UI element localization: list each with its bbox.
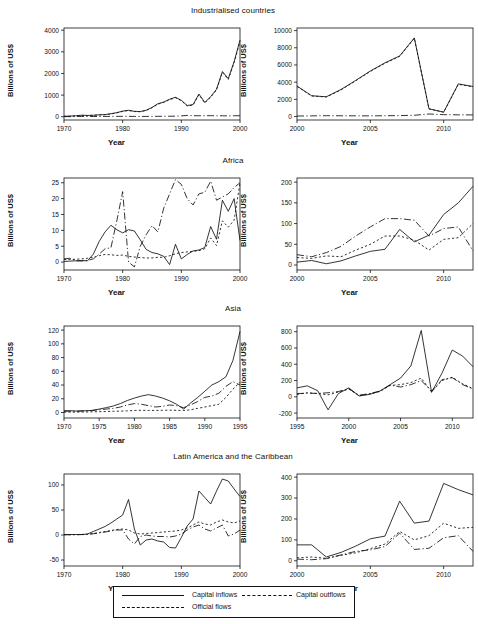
x-tick-label: 1970 (57, 423, 72, 430)
y-tick-label: 4000 (44, 27, 59, 34)
y-tick-label: 80 (52, 354, 60, 361)
chart-panel-asia-right: Billions of US$Year-20002004006008001995… (233, 314, 466, 454)
series-line-capital-outflows (64, 41, 240, 116)
y-tick-label: 400 (281, 361, 292, 368)
y-tick-label: 200 (281, 515, 292, 522)
y-tick-label: 0 (55, 258, 59, 265)
chart-panel-africa-right: Billions of US$Year050100150200200020052… (233, 166, 466, 306)
y-tick-label: 3000 (44, 48, 59, 55)
chart-panel-industrialised-right: Billions of US$Year020004000600080001000… (233, 16, 466, 156)
chart-row-3: Billions of US$Year020406080100120197019… (0, 314, 466, 454)
y-tick-label: 800 (281, 328, 292, 335)
chart-row-1: Billions of US$Year010002000300040001970… (0, 16, 466, 156)
plot-area: 010002000300040001970198019902000 (38, 26, 214, 118)
series-line-official-flows (297, 114, 473, 116)
y-tick-label: 0 (288, 393, 292, 400)
plot-area: -20002004006008001995200020052010 (271, 324, 447, 416)
y-tick-label: 10000 (274, 27, 293, 34)
panel-title-africa: Africa (0, 156, 466, 165)
plot-area: 0100200300400200020052010 (271, 472, 447, 564)
x-tick-label: 2000 (290, 275, 305, 282)
y-tick-label: 0 (55, 531, 59, 538)
y-tick-label: 300 (281, 494, 292, 501)
y-tick-label: 120 (48, 327, 59, 334)
y-tick-label: 4000 (277, 79, 292, 86)
x-tick-label: 1990 (174, 571, 189, 578)
legend-sample-official-flows (122, 607, 184, 618)
y-tick-label: 15 (52, 211, 60, 218)
y-axis-label: Billions of US$ (237, 28, 249, 114)
y-tick-label: 150 (281, 199, 292, 206)
series-line-capital-inflows (297, 186, 473, 263)
y-tick-label: 600 (281, 344, 292, 351)
series-line-official-flows (64, 525, 240, 544)
chart-panel-latam-right: Billions of US$Year010020030040020002005… (233, 462, 466, 602)
legend-label-capital-outflows: Capital outflows (296, 591, 345, 598)
series-line-capital-inflows (297, 38, 473, 112)
y-axis-label: Billions of US$ (237, 474, 249, 560)
legend-label-capital-inflows: Capital inflows (192, 591, 237, 598)
plot-area: 0200040006000800010000200020052010 (271, 26, 447, 118)
x-tick-label: 1985 (162, 423, 177, 430)
y-tick-label: 100 (48, 340, 59, 347)
y-tick-label: 2000 (44, 70, 59, 77)
x-tick-label: 2000 (290, 571, 305, 578)
x-tick-label: 1980 (115, 125, 130, 132)
y-tick-label: -50 (49, 556, 59, 563)
x-tick-label: 1970 (57, 275, 72, 282)
y-axis-label: Billions of US$ (4, 326, 16, 412)
y-tick-label: 100 (281, 220, 292, 227)
y-axis-label: Billions of US$ (237, 178, 249, 264)
y-tick-label: 2000 (277, 96, 292, 103)
x-tick-label: 2000 (290, 125, 305, 132)
y-axis-label: Billions of US$ (4, 474, 16, 560)
y-tick-label: 0 (55, 409, 59, 416)
y-tick-label: 20 (52, 195, 60, 202)
series-line-capital-inflows (64, 199, 240, 265)
y-tick-label: 25 (52, 179, 60, 186)
y-tick-label: 0 (55, 113, 59, 120)
series-line-capital-inflows (64, 40, 240, 116)
plot-area: 050100150200200020052010 (271, 176, 447, 268)
series-line-official-flows (297, 219, 473, 257)
y-tick-label: 10 (52, 227, 60, 234)
x-tick-label: 2010 (436, 275, 451, 282)
x-tick-label: 1980 (115, 571, 130, 578)
x-tick-label: 2010 (436, 571, 451, 578)
panel-title-asia: Asia (0, 304, 466, 313)
chart-panel-industrialised-left: Billions of US$Year010002000300040001970… (0, 16, 233, 156)
x-tick-label: 2005 (363, 275, 378, 282)
plot-frame (297, 326, 473, 418)
y-axis-label: Billions of US$ (4, 178, 16, 264)
y-axis-label: Billions of US$ (237, 326, 249, 412)
x-tick-label: 1990 (174, 125, 189, 132)
series-line-capital-outflows (64, 183, 240, 260)
x-tick-label: 2005 (363, 125, 378, 132)
plot-frame (64, 474, 240, 566)
series-line-capital-outflows (297, 38, 473, 112)
y-tick-label: 200 (281, 179, 292, 186)
series-line-capital-outflows (64, 382, 240, 412)
legend-sample-capital-outflows (242, 595, 292, 606)
plot-frame (64, 326, 240, 418)
chart-panel-africa-left: Billions of US$Year051015202519701980199… (0, 166, 233, 306)
legend-label-official-flows: Official flows (192, 603, 231, 610)
series-line-official-flows (297, 533, 473, 560)
x-tick-label: 1970 (57, 125, 72, 132)
x-tick-label: 1990 (174, 275, 189, 282)
y-tick-label: 0 (288, 557, 292, 564)
panel-title-industrialised: Industrialised countries (0, 6, 466, 15)
panel-title-latam: Latin America and the Caribbean (0, 452, 466, 461)
y-axis-label: Billions of US$ (4, 28, 16, 114)
series-line-capital-inflows (64, 479, 240, 548)
x-tick-label: 2005 (363, 571, 378, 578)
series-line-capital-outflows (297, 523, 473, 558)
x-tick-label: 1970 (57, 571, 72, 578)
series-line-official-flows (64, 382, 240, 412)
series-line-capital-inflows (297, 330, 473, 409)
y-tick-label: 8000 (277, 44, 292, 51)
figure-legend: Capital inflows Capital outflows Officia… (113, 586, 355, 618)
x-tick-label: 2010 (436, 125, 451, 132)
chart-panel-latam-left: Billions of US$Year-50050100197019801990… (0, 462, 233, 602)
